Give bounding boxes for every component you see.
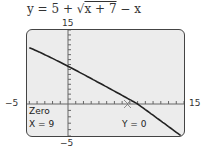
ymin-label: −5	[60, 138, 73, 148]
xmax-label: 15	[189, 98, 200, 108]
trace-x: X = 9	[29, 119, 54, 129]
equation-prefix: y = 5 +	[27, 2, 77, 16]
equation-suffix: − x	[117, 2, 141, 16]
trace-mode: Zero	[29, 106, 50, 116]
equation-radicand: x + 7	[84, 2, 116, 16]
calculator-screen: Zero X = 9 Y = 0	[26, 29, 185, 137]
xmin-label: −5	[5, 98, 18, 108]
equation: y = 5 + √x + 7 − x	[27, 2, 141, 16]
ymax-label: 15	[62, 18, 73, 28]
trace-y: Y = 0	[122, 119, 147, 129]
